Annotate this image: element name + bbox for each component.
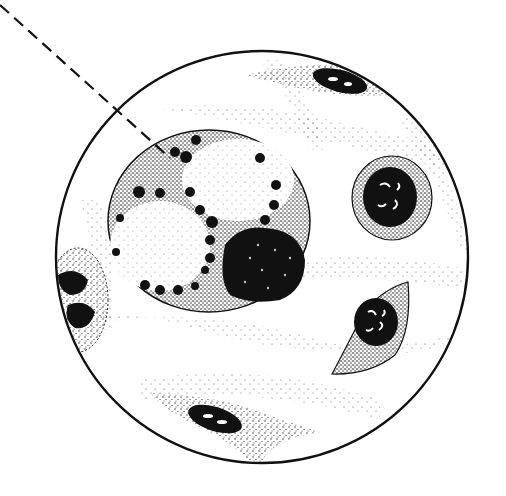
pointer-line	[0, 5, 170, 158]
bottom-elongated-cell	[150, 393, 320, 462]
microscope-field	[48, 60, 470, 462]
round-cell	[352, 156, 432, 240]
illustration-canvas	[0, 0, 506, 496]
nucleus	[222, 228, 305, 302]
large-vacuolated-cell	[108, 130, 310, 312]
spindle-cell	[332, 282, 409, 374]
micrograph-illustration	[0, 0, 506, 496]
